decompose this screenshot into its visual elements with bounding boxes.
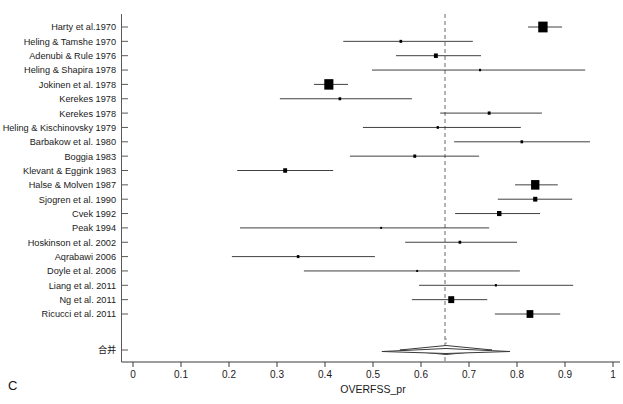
study-label: Sjogren et al. 1990 [39,195,116,205]
x-axis-tick-label: 0.6 [414,369,428,380]
x-axis-tick-label: 0 [130,369,136,380]
study-label: Boggia 1983 [64,152,116,162]
study-label: Peak 1994 [72,223,116,233]
x-axis-title: OVERFSS_pr [340,383,406,395]
point-estimate-marker [437,126,439,129]
x-axis-tick-label: 0.8 [510,369,524,380]
x-axis-tick-label: 0.5 [366,369,380,380]
forest-plot-canvas: Harty et al.1970Heling & Tamshe 1970Aden… [0,0,623,404]
x-axis-tick-label: 0.1 [174,369,188,380]
point-estimate-marker [538,22,547,33]
study-label: Ng et al. 2011 [59,295,116,305]
x-axis-tick-label: 0.2 [222,369,236,380]
x-axis-tick-label: 1 [610,369,616,380]
study-label: Heling & Kischinovsky 1979 [3,123,116,133]
point-estimate-marker [497,211,501,216]
point-estimate-marker [380,227,382,229]
x-axis-tick-label: 0.3 [270,369,284,380]
study-label: Heling & Tamshe 1970 [24,37,116,47]
point-estimate-marker [339,97,342,100]
point-estimate-marker [459,241,462,244]
panel-letter: C [8,378,18,393]
study-label: Harty et al.1970 [51,22,116,32]
x-axis-tick-label: 0.7 [462,369,476,380]
point-estimate-marker [521,140,524,143]
point-estimate-marker [324,79,333,89]
summary-diamond-wings [382,349,510,354]
point-estimate-marker [283,168,287,172]
point-estimate-marker [434,53,438,57]
study-label: Ricucci et al. 2011 [42,309,116,319]
study-label: Heling & Shapira 1978 [24,65,116,75]
study-label: Klevant & Eggink 1983 [23,166,116,176]
x-axis-tick-label: 0.4 [318,369,332,380]
study-label: Jokinen et al. 1978 [39,80,116,90]
study-label: Hoskinson et al. 2002 [28,238,116,248]
point-estimate-marker [297,255,300,258]
x-axis-tick-label: 0.9 [558,369,572,380]
study-label: Barbakow et al. 1980 [30,137,116,147]
summary-label: 合并 [98,344,116,355]
point-estimate-marker [527,310,534,318]
point-estimate-marker [488,111,491,114]
point-estimate-marker [479,69,481,71]
study-label: Adenubi & Rule 1976 [29,51,116,61]
point-estimate-marker [533,197,537,202]
study-label: Liang et al. 2011 [49,281,116,291]
point-estimate-marker [531,180,539,190]
study-label: Kerekes 1978 [59,94,116,104]
study-label: Aqrabawi 2006 [55,252,116,262]
point-estimate-marker [400,40,403,43]
point-estimate-marker [413,155,416,158]
study-label: Doyle et al. 2006 [47,266,116,276]
point-estimate-marker [448,296,454,303]
study-label: Cvek 1992 [72,209,116,219]
study-label: Kerekes 1978 [59,109,116,119]
study-label: Halse & Molven 1987 [29,180,116,190]
point-estimate-marker [416,270,418,272]
point-estimate-marker [495,284,497,286]
forest-plot-figure: Harty et al.1970Heling & Tamshe 1970Aden… [0,0,623,404]
